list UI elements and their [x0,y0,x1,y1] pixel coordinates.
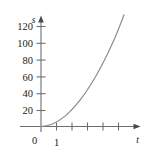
origin-label: 0 [32,135,37,146]
x-axis-arrow-icon [134,124,141,130]
position-curve [41,15,124,127]
y-tick-labels-group: 20 40 60 80 100 120 [17,21,33,116]
chart-canvas: 20 40 60 80 100 120 0 1 s t [0,0,152,161]
axes-group [20,16,141,133]
y-axis-label: s [32,15,36,25]
y-tick-label-40: 40 [23,88,34,99]
y-tick-label-100: 100 [17,38,33,49]
y-axis-arrow-icon [38,16,44,23]
x-tick-labels-group: 0 1 [32,135,59,148]
y-tick-label-60: 60 [23,72,34,83]
y-tick-label-20: 20 [23,105,34,116]
x-tick-label-1: 1 [54,137,59,148]
x-axis-label: t [136,135,139,145]
y-tick-label-80: 80 [23,55,34,66]
y-tick-label-120: 120 [17,21,33,32]
position-time-graph-figure: 20 40 60 80 100 120 0 1 s t [0,0,152,161]
